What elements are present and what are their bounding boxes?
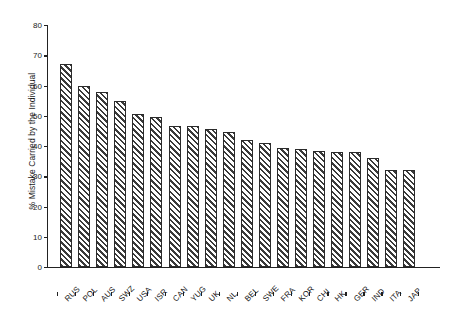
bar	[349, 152, 361, 267]
y-tick-mark	[44, 116, 48, 117]
x-tick-label: BEL	[243, 286, 260, 303]
x-tick-label: KOR	[297, 284, 316, 303]
y-tick-mark	[44, 146, 48, 147]
bar	[96, 92, 108, 267]
x-tick-label: RUS	[63, 285, 82, 304]
x-tick-mark	[57, 292, 58, 296]
x-tick-label: FRA	[279, 285, 297, 303]
x-tick-label: USA	[135, 285, 153, 303]
bar	[331, 152, 343, 267]
bar	[150, 117, 162, 267]
bar	[313, 151, 325, 267]
x-tick-label: IND	[370, 287, 387, 304]
bar	[403, 170, 415, 267]
y-tick-label: 30	[33, 172, 42, 181]
x-tick-label: ITA	[388, 288, 403, 303]
bar	[187, 126, 199, 267]
y-tick-mark	[44, 176, 48, 177]
x-tick-label: GER	[352, 284, 371, 303]
y-tick-label: 0	[38, 263, 42, 272]
x-tick-label: JAP	[406, 286, 423, 303]
bar	[169, 126, 181, 267]
x-tick-label: SWE	[261, 284, 281, 304]
y-tick-label: 80	[33, 21, 42, 30]
bar	[78, 86, 90, 268]
bar	[114, 101, 126, 267]
x-tick-label: CAN	[171, 285, 190, 304]
plot-area: 01020304050607080 RUSPOLAUSSWZUSAISRCANY…	[48, 25, 440, 267]
bar	[259, 143, 271, 267]
bar	[205, 129, 217, 267]
bar	[367, 158, 379, 267]
y-tick-mark	[44, 207, 48, 208]
y-tick-mark	[44, 25, 48, 26]
x-tick-label: ISR	[153, 287, 169, 303]
bar	[295, 149, 307, 267]
y-tick-mark	[44, 55, 48, 56]
x-tick-label: AUS	[99, 285, 117, 303]
x-tick-label: HK	[333, 289, 348, 304]
y-tick-label: 40	[33, 142, 42, 151]
x-tick-label: SWZ	[117, 284, 136, 303]
y-tick-label: 10	[33, 232, 42, 241]
y-tick-label: 50	[33, 111, 42, 120]
bar	[223, 132, 235, 267]
bar	[132, 114, 144, 267]
y-tick-mark	[44, 86, 48, 87]
x-tick-label: YUG	[189, 284, 208, 303]
x-tick-label: CHI	[315, 287, 332, 304]
bar	[385, 170, 397, 267]
bar	[60, 64, 72, 267]
bar-chart: % Mistake Carried by the Individual 0102…	[0, 0, 459, 309]
y-tick-label: 60	[33, 81, 42, 90]
y-tick-label: 20	[33, 202, 42, 211]
bar	[241, 140, 253, 267]
y-tick-mark	[44, 267, 48, 268]
y-tick-mark	[44, 237, 48, 238]
y-tick-label: 70	[33, 51, 42, 60]
x-tick-label: POL	[81, 285, 99, 303]
bar	[277, 148, 289, 267]
x-tick-label: UK	[207, 289, 222, 304]
